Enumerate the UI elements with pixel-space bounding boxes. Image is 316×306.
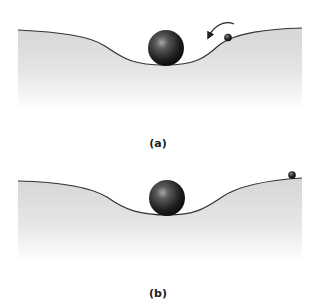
panel-b-label: (b)	[0, 287, 316, 300]
panel-a	[18, 23, 302, 110]
large-ball-b	[149, 180, 185, 216]
curved-arrow-icon	[209, 23, 234, 36]
panel-b	[18, 171, 302, 262]
large-ball-a	[148, 30, 184, 66]
small-ball-b	[288, 171, 296, 179]
energy-well-diagram	[0, 0, 316, 306]
small-ball-a	[224, 34, 232, 42]
panel-a-label: (a)	[0, 137, 316, 150]
